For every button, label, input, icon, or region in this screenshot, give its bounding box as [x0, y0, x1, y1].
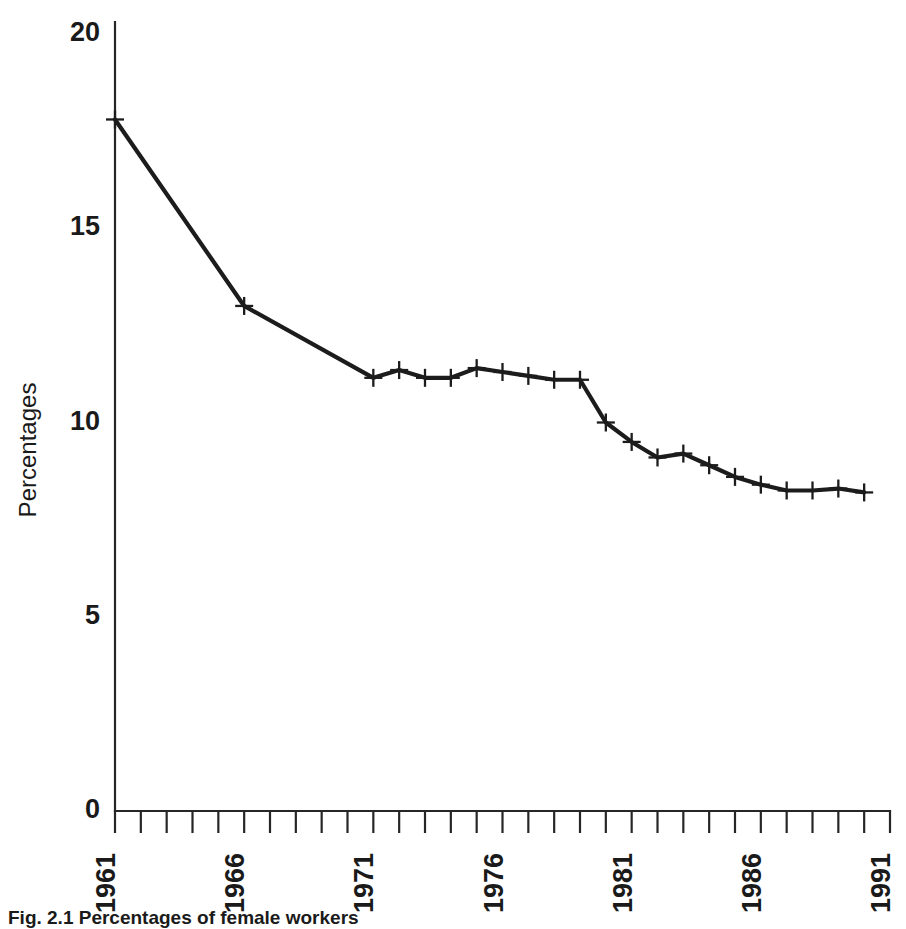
y-axis-title: Percentages: [14, 383, 41, 518]
series-line-percentages: [115, 119, 864, 492]
data-point-marker: [726, 468, 744, 486]
data-point-marker: [571, 371, 589, 389]
data-point-marker: [442, 369, 460, 387]
y-axis-tick-label: 10: [70, 406, 100, 436]
series-markers: [106, 110, 873, 501]
figure-caption: Fig. 2.1 Percentages of female workers: [8, 907, 359, 928]
x-axis-tick-label: 1991: [866, 853, 896, 913]
data-point-marker: [855, 483, 873, 501]
x-axis: [115, 811, 890, 833]
x-axis-tick-label: 1971: [349, 853, 379, 913]
y-axis-tick-label: 15: [70, 211, 100, 241]
data-point-marker: [416, 369, 434, 387]
data-point-marker: [674, 445, 692, 463]
x-axis-tick-label: 1966: [220, 853, 250, 913]
data-point-marker: [390, 361, 408, 379]
data-point-marker: [519, 367, 537, 385]
line-chart: 05101520 1961196619711976198119861991 Pe…: [0, 0, 906, 929]
data-point-marker: [778, 481, 796, 499]
data-point-marker: [468, 359, 486, 377]
data-point-marker: [545, 371, 563, 389]
y-axis-tick-labels: 05101520: [70, 17, 100, 824]
data-point-marker: [494, 363, 512, 381]
data-point-marker: [364, 369, 382, 387]
data-point-marker: [829, 480, 847, 498]
figure-container: 05101520 1961196619711976198119861991 Pe…: [0, 0, 906, 929]
x-axis-tick-label: 1986: [737, 853, 767, 913]
data-point-marker: [649, 448, 667, 466]
y-axis-tick-label: 5: [85, 600, 100, 630]
data-point-marker: [804, 481, 822, 499]
data-point-marker: [752, 476, 770, 494]
x-axis-tick-labels: 1961196619711976198119861991: [91, 853, 896, 913]
y-axis-tick-label: 0: [85, 794, 100, 824]
data-point-marker: [700, 456, 718, 474]
x-axis-tick-label: 1976: [479, 853, 509, 913]
figure-caption-group: Fig. 2.1 Percentages of female workers: [8, 907, 359, 928]
data-series-percentages: [106, 110, 873, 501]
x-axis-ticks: [115, 811, 890, 833]
x-axis-tick-label: 1961: [91, 853, 121, 913]
x-axis-tick-label: 1981: [608, 853, 638, 913]
y-axis-tick-label: 20: [70, 17, 100, 47]
